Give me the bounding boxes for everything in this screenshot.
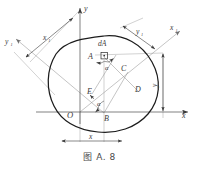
dimension-x-label: x [88, 132, 93, 141]
dimension-y1-label: y [135, 27, 140, 36]
label-alpha-upper: α [105, 64, 109, 71]
label-alpha-lower: α [97, 100, 101, 107]
label-point-C: C [121, 64, 127, 73]
axis-x1-subscript: 1 [175, 28, 177, 33]
origin-label-O: O [67, 110, 73, 120]
area-element-center-dot [103, 55, 105, 57]
dimension-y-label: y [150, 83, 159, 88]
label-point-A: A [87, 52, 93, 61]
label-dA: dA [98, 39, 107, 48]
label-point-D: D [134, 85, 141, 94]
axis-y-label: y [83, 4, 88, 13]
dimension-y1-label-group: y 1 [135, 27, 143, 37]
figure-caption: 图 A. 8 [0, 150, 199, 163]
axis-x1-line [80, 31, 180, 112]
alpha-arc-tick-left-lower [96, 109, 100, 112]
axis-x-label: x [181, 111, 186, 120]
axis-x1-label: x [169, 23, 174, 32]
dimension-y1-subscript: 1 [141, 32, 143, 37]
dimension-x1-label-group: x 1 [42, 33, 50, 43]
axis-y1-subscript: 1 [10, 42, 12, 47]
dimension-x1-label: x [42, 33, 47, 42]
axis-y1-label: y [4, 37, 9, 46]
axis-y1-label-group: y 1 [4, 37, 13, 47]
figure-container: y x x 1 y 1 O x 1 y 1 y x dA A B C D E α… [0, 0, 199, 173]
mechanics-diagram: y x x 1 y 1 O x 1 y 1 y x dA A B C D E α… [0, 0, 199, 173]
label-point-B: B [104, 114, 109, 123]
dimension-x1-subscript: 1 [48, 38, 50, 43]
axis-x1-label-group: x 1 [169, 23, 178, 33]
label-point-E: E [86, 87, 92, 96]
